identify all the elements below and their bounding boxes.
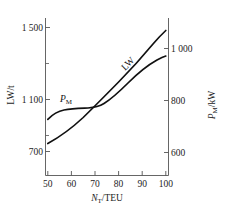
curve-label-pm-subscript: M xyxy=(66,98,73,106)
left-tick-label-700: 700 xyxy=(29,147,44,157)
x-tick-label-70: 70 xyxy=(90,179,100,189)
curve-lw xyxy=(48,31,166,144)
data-curves xyxy=(48,31,166,144)
right-axis-tick-labels: 1 000 800 600 xyxy=(171,44,193,158)
right-tick-label-1000: 1 000 xyxy=(171,44,193,54)
chart-canvas: 1 500 1 100 700 LW/t 1 000 800 600 PM/kW xyxy=(0,0,226,206)
x-tick-label-90: 90 xyxy=(137,179,147,189)
right-axis-title-unit: /kW xyxy=(207,91,217,107)
left-tick-label-1100: 1 100 xyxy=(22,95,44,105)
x-axis-title-text: NT/TEU xyxy=(90,193,123,205)
curve-pm xyxy=(48,56,166,119)
left-tick-label-1500: 1 500 xyxy=(22,23,44,33)
x-axis-title: NT/TEU xyxy=(90,193,123,205)
x-tick-label-60: 60 xyxy=(67,179,77,189)
right-tick-label-600: 600 xyxy=(171,148,186,158)
left-axis-ticks xyxy=(46,28,51,152)
curve-label-pm: PM xyxy=(59,94,73,106)
x-tick-label-80: 80 xyxy=(114,179,124,189)
x-tick-label-50: 50 xyxy=(43,179,53,189)
right-axis-title-text: PM/kW xyxy=(207,91,219,120)
x-tick-label-100: 100 xyxy=(159,179,174,189)
curve-annotations: PM LW xyxy=(59,55,136,106)
right-axis-title: PM/kW xyxy=(207,91,219,120)
chart-figure: 1 500 1 100 700 LW/t 1 000 800 600 PM/kW xyxy=(0,0,226,206)
left-axis-title-text: LW/t xyxy=(6,85,16,105)
x-axis-ticks xyxy=(48,171,166,176)
right-tick-label-800: 800 xyxy=(171,96,186,106)
curve-label-lw: LW xyxy=(119,55,136,72)
left-axis-title: LW/t xyxy=(6,85,16,105)
x-axis-title-unit: /TEU xyxy=(102,193,123,203)
right-axis-ticks xyxy=(164,49,169,153)
x-axis-tick-labels: 50 60 70 80 90 100 xyxy=(43,179,173,189)
left-axis-tick-labels: 1 500 1 100 700 xyxy=(22,23,44,157)
